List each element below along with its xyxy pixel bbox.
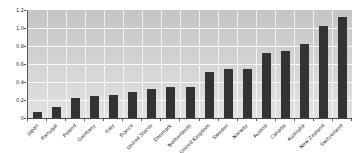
v-gridline — [199, 10, 200, 118]
v-gridline — [332, 10, 333, 118]
v-gridline — [104, 10, 105, 118]
bar-norway — [243, 69, 252, 119]
v-gridline — [85, 10, 86, 118]
x-tick-label: France — [119, 123, 134, 138]
plot-area — [27, 10, 352, 119]
y-tick-label: 0.8 — [8, 44, 24, 49]
x-tick-mark — [256, 119, 257, 121]
bar-united-kingdom — [205, 72, 214, 118]
y-tick-mark — [24, 10, 26, 11]
bar-united-states — [147, 89, 156, 118]
bar-portugal — [52, 107, 61, 118]
x-tick-label: Japan — [26, 123, 39, 136]
bar-denmark — [166, 87, 175, 119]
bar-germany — [90, 96, 99, 118]
y-tick-mark — [24, 118, 26, 119]
x-tick-label: Sweden — [212, 123, 230, 141]
x-tick-mark — [84, 119, 85, 121]
bar-australia — [300, 44, 309, 118]
x-tick-mark — [141, 119, 142, 121]
y-tick-mark — [24, 82, 26, 83]
y-tick-label: 0 — [8, 116, 24, 121]
bar-japan — [33, 112, 42, 118]
x-tick-label: Germany — [76, 123, 96, 143]
v-gridline — [180, 10, 181, 118]
h-gridline — [28, 28, 352, 29]
v-gridline — [256, 10, 257, 118]
bar-austria — [262, 53, 271, 118]
bar-new-zealand — [319, 26, 328, 118]
x-tick-mark — [351, 119, 352, 121]
x-tick-mark — [218, 119, 219, 121]
x-tick-mark — [103, 119, 104, 121]
bar-netherlands — [186, 87, 195, 119]
x-tick-mark — [27, 119, 28, 121]
y-tick-label: 0.2 — [8, 98, 24, 103]
y-tick-mark — [24, 28, 26, 29]
bar-france — [128, 92, 137, 118]
x-tick-mark — [313, 119, 314, 121]
y-tick-label: 0.4 — [8, 80, 24, 85]
x-tick-mark — [179, 119, 180, 121]
v-gridline — [237, 10, 238, 118]
x-tick-mark — [122, 119, 123, 121]
x-tick-mark — [160, 119, 161, 121]
v-gridline — [294, 10, 295, 118]
bar-canada — [281, 51, 290, 118]
y-tick-mark — [24, 46, 26, 47]
x-tick-mark — [294, 119, 295, 121]
x-tick-label: Italy — [104, 123, 115, 134]
x-tick-mark — [237, 119, 238, 121]
bar-sweden — [224, 69, 233, 119]
y-tick-label: 1.2 — [8, 8, 24, 13]
v-gridline — [47, 10, 48, 118]
bar-switzerland — [338, 17, 347, 118]
v-gridline — [142, 10, 143, 118]
x-tick-mark — [65, 119, 66, 121]
v-gridline — [313, 10, 314, 118]
x-tick-label: Austria — [252, 123, 268, 139]
bar-italy — [109, 95, 118, 118]
bar-poland — [71, 98, 80, 118]
x-tick-mark — [275, 119, 276, 121]
x-tick-mark — [46, 119, 47, 121]
x-tick-mark — [332, 119, 333, 121]
v-gridline — [218, 10, 219, 118]
x-tick-mark — [199, 119, 200, 121]
x-tick-label: Norway — [232, 123, 249, 140]
bar-chart: 1.21.00.80.60.40.20 JapanPortugalPolandG… — [0, 0, 360, 153]
y-tick-label: 1.0 — [8, 26, 24, 31]
y-tick-label: 0.6 — [8, 62, 24, 67]
v-gridline — [66, 10, 67, 118]
v-gridline — [161, 10, 162, 118]
y-tick-mark — [24, 100, 26, 101]
y-tick-mark — [24, 64, 26, 65]
x-tick-label: Portugal — [40, 123, 58, 141]
v-gridline — [123, 10, 124, 118]
x-tick-label: Poland — [62, 123, 77, 138]
v-gridline — [275, 10, 276, 118]
